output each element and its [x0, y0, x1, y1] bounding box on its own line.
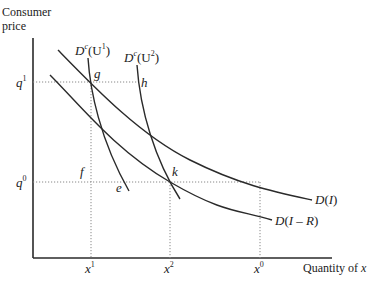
- price-label-q1: q1: [16, 74, 27, 90]
- point-label-h: h: [141, 75, 148, 90]
- point-label-g: g: [94, 66, 101, 81]
- quantity-label-x1: x1: [84, 260, 95, 276]
- demand-curve-D-I-minus-R: [50, 75, 272, 220]
- point-label-e: e: [116, 180, 122, 195]
- price-label-q0: q0: [16, 174, 27, 190]
- curve-label-Dc-U2: Dc(U2): [123, 49, 159, 65]
- curve-label-D-I: D(I): [314, 192, 337, 207]
- quantity-label-x2: x2: [163, 260, 174, 276]
- y-axis-label-line2: price: [2, 19, 26, 33]
- y-axis-label-line1: Consumer: [2, 5, 51, 19]
- point-label-k: k: [172, 164, 178, 179]
- quantity-label-x0: x0: [253, 260, 264, 276]
- compensated-demand-diagram: Consumer price Quantity of x q1 q0 x1 x2…: [0, 0, 385, 286]
- curve-label-Dc-U1: Dc(U1): [74, 42, 110, 58]
- x-axis-label: Quantity of x: [303, 261, 367, 275]
- curve-label-D-I-minus-R: D(I – R): [274, 213, 318, 228]
- point-label-f: f: [80, 164, 86, 179]
